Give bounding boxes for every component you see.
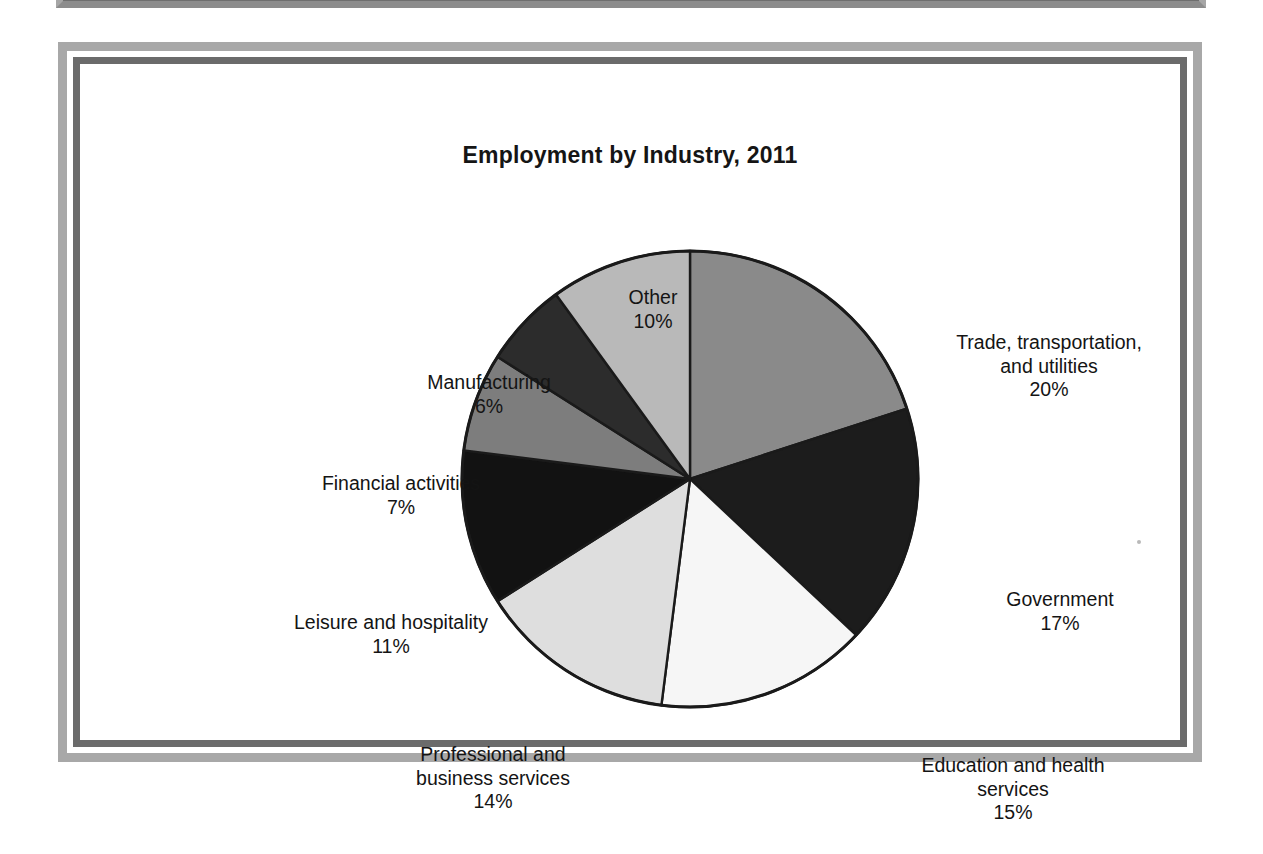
preceding-figure-frame-edge — [56, 0, 1206, 8]
pie-label-government-percent: 17% — [960, 612, 1160, 636]
pie-label-education-name: Education and health services — [921, 754, 1104, 800]
figure-inner-frame: Employment by Industry, 2011 Trade, tran… — [73, 57, 1187, 747]
pie-label-trade-percent: 20% — [924, 378, 1174, 402]
pie-label-manufacturing-name: Manufacturing — [427, 371, 551, 393]
pie-label-trade-transportation-utilities: Trade, transportation, and utilities 20% — [924, 307, 1174, 426]
pie-label-trade-name: Trade, transportation, and utilities — [956, 331, 1142, 377]
pie-chart: Trade, transportation, and utilities 20%… — [80, 64, 1180, 740]
pie-label-professional-name: Professional and business services — [416, 743, 570, 789]
pie-label-education-health-services: Education and health services 15% — [888, 730, 1138, 849]
pie-label-education-percent: 15% — [888, 801, 1138, 825]
pie-label-other: Other 10% — [558, 262, 748, 357]
pie-label-financial-activities: Financial activities 7% — [276, 448, 526, 543]
pie-label-professional-business-services: Professional and business services 14% — [368, 719, 618, 838]
pie-label-leisure-name: Leisure and hospitality — [294, 611, 488, 633]
figure-outer-frame: Employment by Industry, 2011 Trade, tran… — [58, 42, 1202, 762]
pie-label-manufacturing-percent: 6% — [374, 395, 604, 419]
pie-label-financial-name: Financial activities — [322, 472, 480, 494]
scanned-page: Employment by Industry, 2011 Trade, tran… — [0, 0, 1263, 854]
pie-label-financial-percent: 7% — [276, 496, 526, 520]
scan-artifact-speck — [1137, 540, 1141, 544]
pie-label-manufacturing: Manufacturing 6% — [374, 347, 604, 442]
preceding-figure-frame-inner-border — [63, 0, 1199, 1]
pie-label-leisure-percent: 11% — [256, 635, 526, 659]
pie-label-government: Government 17% — [960, 564, 1160, 659]
pie-label-other-name: Other — [629, 286, 678, 308]
pie-label-other-percent: 10% — [558, 310, 748, 334]
pie-label-professional-percent: 14% — [368, 790, 618, 814]
pie-label-government-name: Government — [1006, 588, 1113, 610]
pie-label-leisure-hospitality: Leisure and hospitality 11% — [256, 587, 526, 682]
